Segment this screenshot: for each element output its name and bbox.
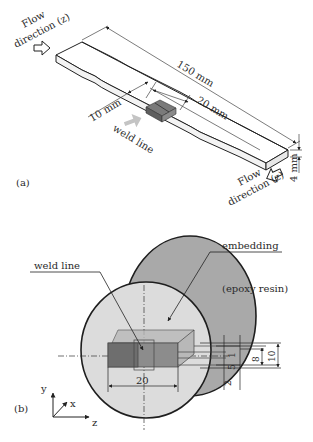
weld-line-label-a: weld line [111,122,156,155]
dim-10-label: 10 [267,350,277,362]
dim-thickness-label: 4 mm [288,153,299,182]
embedding-label: embedding [222,240,279,251]
dim-length-label: 150 mm [175,58,216,89]
weld-line-label-b: weld line [34,260,80,271]
axis-x-label: x [70,398,76,409]
dim-gauge-left-label: 10 mm [87,96,123,124]
figure: Flow direction (z) 150 mm 20 mm 10 mm we… [0,0,313,442]
dim-20-label: 20 [136,375,149,386]
dim-8-label: 8 [251,356,261,362]
dim-5-label: 5 [227,364,237,370]
panel-a-label: (a) [16,177,30,188]
panel-a: Flow direction (z) 150 mm 20 mm 10 mm we… [12,8,302,208]
panel-b: 20 1 5 2 8 10 weld line embedding [14,236,288,430]
dim-2-label: 2 [223,380,233,386]
panel-b-label: (b) [14,403,28,414]
axis-y-label: y [40,383,47,394]
flow-arrow-left-icon [34,41,50,55]
dim-1-label: 1 [227,352,237,358]
epoxy-resin-label: (epoxy resin) [222,283,288,294]
axis-z-label: z [92,417,97,428]
